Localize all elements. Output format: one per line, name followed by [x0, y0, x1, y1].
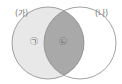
- region-intersection-label: ㉡: [59, 38, 67, 46]
- set-a-label: (가): [15, 10, 28, 18]
- region-a-only-label: ㉠: [30, 38, 38, 46]
- set-b-label: (나): [95, 10, 108, 18]
